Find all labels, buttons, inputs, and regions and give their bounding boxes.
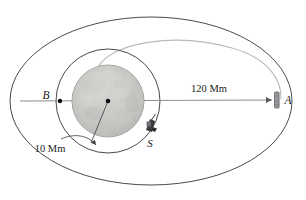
distance-radius-label: 10 Mm — [35, 143, 66, 154]
orbital-diagram: B A 120 Mm S 10 Mm — [0, 0, 306, 200]
figure-container: B A 120 Mm S 10 Mm — [0, 0, 306, 200]
satellite-a-icon — [275, 92, 280, 108]
point-a-label: A — [283, 94, 292, 106]
planet-center-marker — [106, 99, 111, 104]
satellite-a-body — [275, 92, 280, 108]
point-b-label: B — [42, 89, 49, 101]
distance-major-label: 120 Mm — [191, 83, 227, 94]
point-b-marker — [58, 99, 62, 103]
spacecraft-s-label: S — [147, 137, 153, 149]
